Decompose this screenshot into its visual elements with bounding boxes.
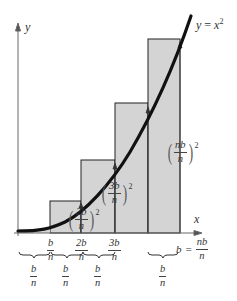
tick-label-b-over-n: bn: [47, 238, 54, 262]
tick-label-2b-over-n: 2bn: [75, 238, 88, 262]
height-label-3b-over-n-squared: ( 3bn )2: [100, 181, 133, 205]
x-axis-label: x: [194, 213, 199, 225]
curve-label: y = x2: [196, 18, 223, 31]
height-label-nb-over-n-squared: ( nbn )2: [166, 140, 199, 164]
tick-label-3b-over-n: 3bn: [108, 238, 121, 262]
endpoint-label: b = nb n: [176, 237, 208, 261]
rectangle-n: [148, 39, 180, 233]
width-label-1: bn: [30, 264, 37, 288]
width-label-2: bn: [62, 264, 69, 288]
height-label-2b-over-n-squared: ( 2bn )2: [67, 207, 100, 231]
x-axis-arrow-icon: [194, 231, 202, 236]
y-axis-label: y: [25, 21, 30, 33]
y-axis-arrow-icon: [16, 23, 21, 31]
width-braces: [19, 252, 178, 258]
width-label-n: bn: [159, 264, 166, 288]
width-label-3: bn: [94, 264, 101, 288]
